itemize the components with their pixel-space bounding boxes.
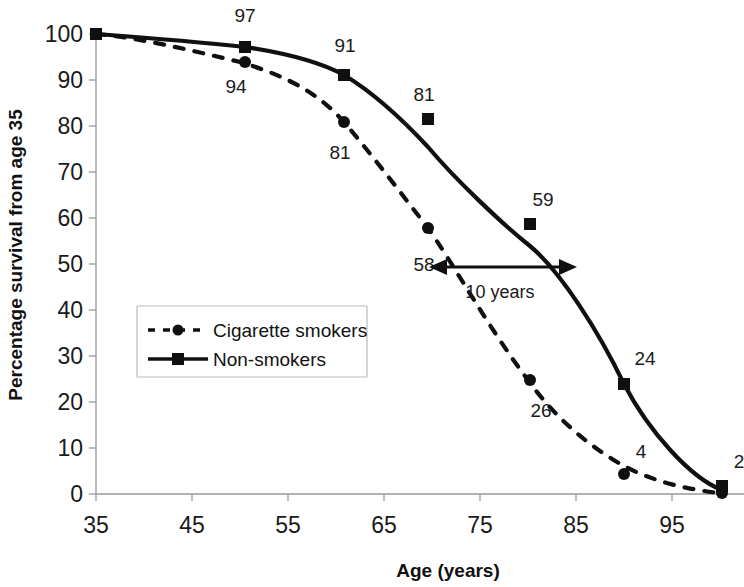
chart-legend: Cigarette smokers Non-smokers — [137, 306, 367, 377]
y-tick-label: 20 — [57, 389, 83, 415]
point-label: 81 — [329, 142, 350, 163]
point-label: 58 — [413, 254, 434, 275]
data-point — [716, 480, 728, 492]
series-markers-non-smokers — [90, 28, 728, 492]
x-tick-label: 35 — [83, 512, 109, 538]
point-label: 97 — [234, 5, 255, 26]
x-tick-label: 85 — [563, 512, 589, 538]
data-point — [618, 468, 630, 480]
x-axis-title: Age (years) — [396, 560, 500, 581]
series-line-non-smokers — [96, 34, 722, 490]
y-tick-label: 80 — [57, 113, 83, 139]
survival-chart: 100 90 80 70 60 50 40 30 20 10 0 35 45 5… — [0, 0, 744, 587]
legend-marker-square-icon — [172, 353, 184, 365]
x-tick-label: 95 — [659, 512, 685, 538]
chart-canvas: 100 90 80 70 60 50 40 30 20 10 0 35 45 5… — [0, 0, 744, 587]
legend-label: Cigarette smokers — [213, 320, 367, 341]
point-label: 91 — [334, 35, 355, 56]
data-point — [422, 113, 434, 125]
point-label: 2 — [734, 451, 744, 472]
point-label: 94 — [225, 76, 247, 97]
data-point — [239, 56, 251, 68]
y-axis-title: Percentage survival from age 35 — [5, 109, 26, 401]
y-tick-label: 30 — [57, 343, 83, 369]
y-tick-label: 100 — [45, 21, 83, 47]
arrow-head-right-icon — [559, 259, 577, 275]
y-axis-tick-labels: 100 90 80 70 60 50 40 30 20 10 0 — [45, 21, 83, 507]
point-labels-non-smokers: 97 91 81 59 24 2 — [234, 5, 744, 472]
data-point — [422, 222, 434, 234]
legend-label: Non-smokers — [213, 349, 326, 370]
ten-years-annotation: 10 years — [429, 259, 577, 302]
x-axis-tick-labels: 35 45 55 65 75 85 95 — [83, 512, 685, 538]
point-label: 26 — [530, 400, 551, 421]
y-tick-label: 10 — [57, 435, 83, 461]
y-tick-label: 0 — [70, 481, 83, 507]
y-tick-label: 90 — [57, 67, 83, 93]
x-tick-label: 75 — [467, 512, 493, 538]
gap-annotation-label: 10 years — [465, 282, 534, 302]
y-tick-label: 60 — [57, 205, 83, 231]
x-axis-ticks — [96, 494, 672, 501]
x-tick-label: 65 — [371, 512, 397, 538]
data-point — [618, 378, 630, 390]
point-label: 4 — [636, 441, 647, 462]
series-markers-cigarette-smokers — [91, 29, 729, 500]
x-tick-label: 55 — [275, 512, 301, 538]
y-axis-ticks — [89, 34, 96, 494]
data-point — [338, 116, 350, 128]
series-line-cigarette-smokers — [96, 34, 720, 493]
data-point — [524, 374, 536, 386]
y-tick-label: 50 — [57, 251, 83, 277]
legend-marker-circle-icon — [173, 325, 184, 336]
x-tick-label: 45 — [179, 512, 205, 538]
y-tick-label: 40 — [57, 297, 83, 323]
data-point — [239, 41, 251, 53]
point-label: 81 — [413, 84, 434, 105]
data-point — [338, 69, 350, 81]
y-tick-label: 70 — [57, 159, 83, 185]
point-label: 24 — [634, 348, 656, 369]
data-point — [90, 28, 102, 40]
point-label: 59 — [532, 189, 553, 210]
data-point — [524, 218, 536, 230]
